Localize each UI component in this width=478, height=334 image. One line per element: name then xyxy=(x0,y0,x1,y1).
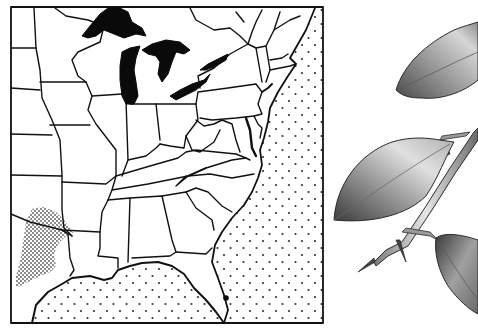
plant-illustration xyxy=(330,0,478,334)
lake-superior xyxy=(82,8,146,38)
range-map xyxy=(0,0,330,334)
petiole xyxy=(440,132,470,140)
leaf-bottom xyxy=(436,234,478,314)
lake-huron xyxy=(142,40,190,82)
lake-michigan xyxy=(120,46,140,104)
leaf-top xyxy=(396,22,478,98)
thorn-icon xyxy=(358,258,375,272)
lake-erie xyxy=(170,74,210,100)
gulf-of-mexico xyxy=(32,262,224,323)
south-florida-marker xyxy=(223,295,229,301)
